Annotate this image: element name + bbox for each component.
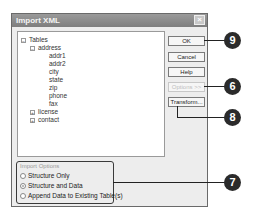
callout-badge-ok: 9 — [224, 32, 241, 49]
radio-icon[interactable] — [20, 173, 26, 179]
callout-line — [177, 106, 178, 117]
tree-node-license[interactable]: +license — [30, 108, 58, 116]
import-options-legend: Import Options — [20, 163, 59, 170]
close-button[interactable]: × — [194, 15, 205, 25]
callout-line — [113, 182, 226, 183]
radio-structure-only[interactable]: Structure Only — [20, 172, 70, 180]
radio-structure-and-data[interactable]: Structure and Data — [20, 182, 83, 190]
tree-node-field[interactable]: phone — [49, 92, 67, 100]
title-bar[interactable]: Import XML × — [12, 14, 207, 27]
import-options-group: Import Options Structure Only Structure … — [16, 161, 114, 204]
tree-node-field[interactable]: fax — [49, 100, 58, 108]
tree-node-contact[interactable]: +contact — [30, 116, 59, 124]
collapse-icon[interactable]: − — [21, 38, 26, 43]
close-icon: × — [197, 15, 202, 24]
dialog-title: Import XML — [16, 15, 60, 26]
callout-line — [204, 40, 226, 41]
tree-node-field[interactable]: state — [49, 76, 63, 84]
callout-badge-options: 6 — [224, 78, 241, 95]
ok-button[interactable]: OK — [168, 36, 205, 46]
tree-node-field[interactable]: addr2 — [49, 60, 66, 68]
cancel-button[interactable]: Cancel — [168, 52, 205, 62]
tree-node-field[interactable]: addr1 — [49, 52, 66, 60]
tree-node-tables[interactable]: −Tables — [21, 36, 48, 44]
radio-append-data[interactable]: Append Data to Existing Table(s) — [20, 192, 123, 200]
collapse-icon[interactable]: − — [30, 46, 35, 51]
tree-node-field[interactable]: zip — [49, 84, 57, 92]
tree-node-field[interactable]: city — [49, 68, 59, 76]
callout-line — [177, 117, 226, 118]
expand-icon[interactable]: + — [30, 118, 35, 123]
import-xml-dialog: Import XML × −Tables −address addr1 addr… — [11, 13, 208, 207]
callout-line — [204, 86, 226, 87]
options-button[interactable]: Options >> — [168, 82, 205, 92]
radio-icon[interactable] — [20, 193, 26, 199]
radio-selected-icon[interactable] — [20, 183, 26, 189]
callout-badge-import-options: 7 — [224, 174, 241, 191]
expand-icon[interactable]: + — [30, 110, 35, 115]
callout-badge-transform: 8 — [224, 109, 241, 126]
tables-tree[interactable]: −Tables −address addr1 addr2 city state … — [17, 31, 165, 157]
tree-node-address[interactable]: −address — [30, 44, 61, 52]
transform-button[interactable]: Transform... — [168, 97, 205, 107]
help-button[interactable]: Help — [168, 67, 205, 77]
